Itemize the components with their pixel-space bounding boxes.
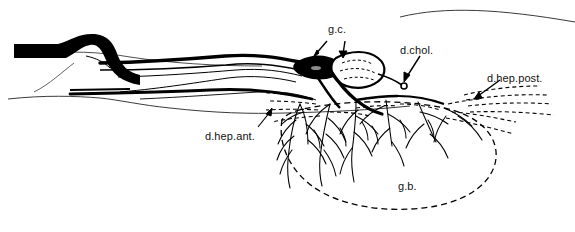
label-dheppost: d.hep.post. (487, 72, 543, 84)
gc-arrow-1 (313, 41, 327, 58)
anterior-hepatic-duct (70, 77, 316, 100)
label-dchol: d.chol. (400, 44, 433, 56)
dchol-arrow (404, 56, 420, 82)
duct-orifice (401, 83, 407, 89)
upper-liver-contour (400, 10, 575, 22)
posterior-hepatic-ducts (446, 86, 554, 134)
dhepant-arrow (258, 108, 272, 127)
thin-accessory-strand (34, 63, 74, 92)
label-gb: g.b. (398, 180, 417, 192)
anatomical-figure: g.c. d.chol. d.hep.post. d.hep.ant. g.b. (0, 0, 575, 232)
biliary-duct-drawing (0, 0, 575, 232)
label-dhepant: d.hep.ant. (205, 130, 255, 142)
label-gc: g.c. (328, 23, 346, 35)
